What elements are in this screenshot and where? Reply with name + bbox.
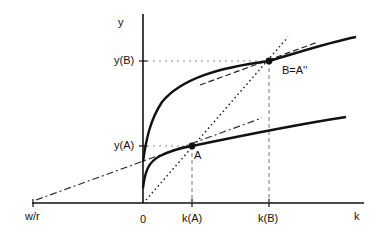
x-axis-label: k	[354, 211, 360, 222]
x-tick-label-k-a: k(A)	[182, 213, 202, 224]
lower-curve	[143, 117, 346, 188]
point-a-label: A	[194, 150, 201, 161]
upper-curve	[143, 37, 356, 162]
x-tick-label-w-r: w/r	[25, 211, 40, 222]
y-tick-label-b: y(B)	[114, 55, 134, 66]
x-tick-label-origin: 0	[140, 214, 146, 225]
x-tick-label-k-b: k(B)	[258, 213, 278, 224]
diagram-canvas	[0, 0, 384, 237]
y-tick-label-a: y(A)	[114, 140, 134, 151]
point-b-label: B=A''	[282, 65, 307, 76]
point-b	[266, 58, 273, 65]
y-axis-label: y	[118, 17, 124, 28]
